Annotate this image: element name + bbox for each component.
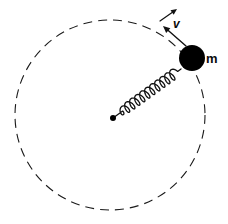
center-pivot-dot-icon bbox=[110, 115, 116, 121]
point-mass-icon bbox=[179, 45, 205, 71]
mass-label: m bbox=[206, 51, 218, 66]
figure-drawing: m v bbox=[0, 0, 228, 224]
figure-background bbox=[0, 0, 228, 224]
physics-figure-canvas: m v bbox=[0, 0, 228, 224]
